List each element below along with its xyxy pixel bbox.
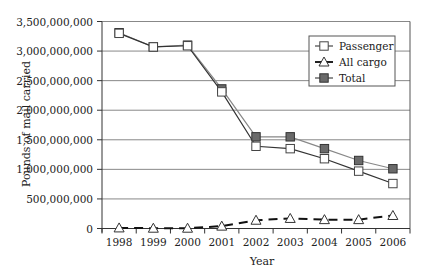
passenger-marker — [115, 29, 123, 37]
y-tick-label: 3,500,000,000 — [16, 16, 93, 28]
passenger-marker — [286, 144, 294, 152]
line-chart: 0500,000,0001,000,000,0001,500,000,0002,… — [0, 0, 425, 280]
total-marker — [320, 144, 328, 152]
total-marker — [286, 133, 294, 141]
x-tick-label: 2005 — [345, 236, 372, 248]
y-tick-label: 500,000,000 — [26, 193, 93, 205]
x-tick-label: 2000 — [174, 236, 201, 248]
x-tick-label: 2003 — [277, 236, 304, 248]
legend-label: Total — [339, 72, 366, 84]
x-axis-label: Year — [249, 255, 275, 268]
passenger-marker — [320, 155, 328, 163]
x-tick-label: 2006 — [380, 236, 407, 248]
legend-label: Passenger — [339, 40, 395, 52]
total-marker — [389, 165, 397, 173]
total-marker — [252, 133, 260, 141]
x-tick-label: 2004 — [311, 236, 338, 248]
passenger-marker — [389, 179, 397, 187]
passenger-marker — [218, 88, 226, 96]
x-tick-label: 2001 — [208, 236, 235, 248]
passenger-marker — [320, 42, 328, 50]
passenger-marker — [354, 167, 362, 175]
x-tick-label: 1999 — [140, 236, 167, 248]
y-axis-label: Pounds of mail carried — [20, 61, 33, 187]
x-tick-label: 2002 — [243, 236, 270, 248]
legend: PassengerAll cargoTotal — [309, 36, 395, 86]
x-tick-label: 1998 — [106, 236, 133, 248]
passenger-marker — [149, 43, 157, 51]
passenger-marker — [183, 42, 191, 50]
y-tick-label: 0 — [86, 223, 93, 235]
y-tick-label: 3,000,000,000 — [16, 45, 93, 57]
total-marker — [320, 74, 328, 82]
passenger-marker — [252, 142, 260, 150]
total-marker — [354, 156, 362, 164]
legend-label: All cargo — [338, 56, 387, 68]
